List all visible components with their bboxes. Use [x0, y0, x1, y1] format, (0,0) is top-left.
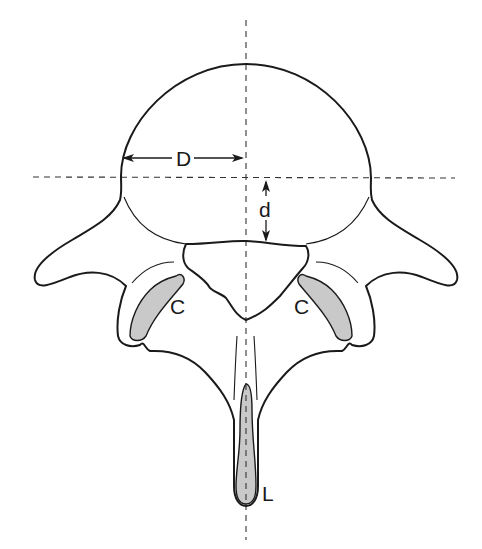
- label-D: D: [176, 147, 191, 170]
- body-posterior-curve-right: [306, 197, 369, 244]
- label-C-right: C: [294, 295, 309, 318]
- horizontal-midline: [33, 177, 455, 178]
- label-d: d: [259, 198, 271, 221]
- facet-arc-right: [316, 262, 358, 283]
- spinous-inner-line-right: [254, 336, 257, 400]
- label-C-left: C: [170, 295, 185, 318]
- spinous-inner-line-left: [234, 336, 237, 400]
- body-posterior-curve-left: [124, 197, 186, 244]
- label-L: L: [262, 482, 274, 505]
- vertebra-diagram: D d C C L: [0, 0, 482, 549]
